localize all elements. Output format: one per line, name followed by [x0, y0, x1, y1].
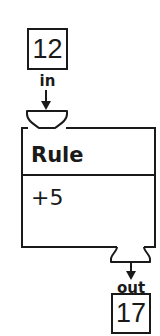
- output-value: 17: [116, 300, 146, 327]
- output-value-box: 17: [111, 293, 151, 334]
